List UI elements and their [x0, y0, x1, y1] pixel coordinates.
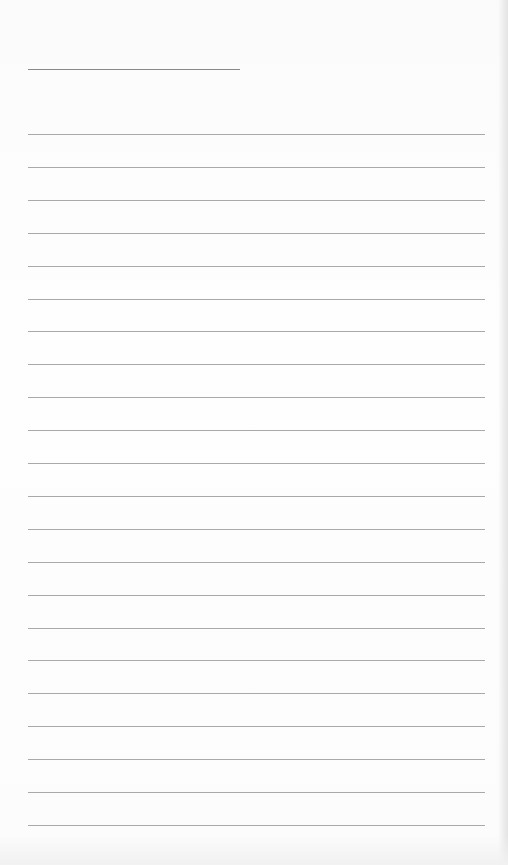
ruled-line	[28, 562, 485, 563]
ruled-line	[28, 200, 485, 201]
page-edge-shadow	[498, 0, 508, 865]
ruled-line	[28, 134, 485, 135]
ruled-line	[28, 463, 485, 464]
ruled-line	[28, 331, 485, 332]
ruled-line	[28, 167, 485, 168]
ruled-line	[28, 233, 485, 234]
page-bottom-shade	[0, 835, 508, 865]
ruled-line	[28, 595, 485, 596]
ruled-line	[28, 726, 485, 727]
ruled-line	[28, 299, 485, 300]
notepaper-page	[0, 0, 508, 865]
ruled-line	[28, 529, 485, 530]
ruled-line	[28, 364, 485, 365]
ruled-line	[28, 825, 485, 826]
ruled-line	[28, 693, 485, 694]
ruled-line	[28, 496, 485, 497]
ruled-line	[28, 660, 485, 661]
ruled-line	[28, 430, 485, 431]
ruled-line	[28, 628, 485, 629]
title-line	[28, 69, 240, 70]
ruled-line	[28, 759, 485, 760]
ruled-line	[28, 266, 485, 267]
ruled-line	[28, 792, 485, 793]
ruled-line	[28, 397, 485, 398]
